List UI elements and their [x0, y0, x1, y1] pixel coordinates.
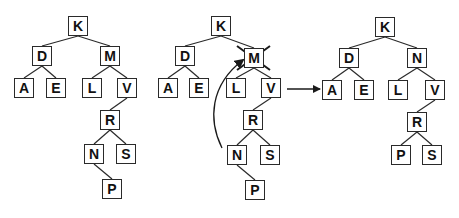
tree-node-during-m: M — [244, 48, 264, 68]
tree-edge-after-v-r — [417, 100, 435, 112]
tree-edge-after-n-l — [398, 68, 417, 80]
tree-node-before-k: K — [68, 16, 88, 36]
tree-node-before-r: R — [100, 110, 120, 130]
tree-node-before-d: D — [32, 46, 52, 66]
tree-edge-during-v-r — [253, 98, 271, 110]
tree-node-before-a: A — [14, 78, 34, 98]
tree-node-during-d: D — [175, 46, 195, 66]
tree-edge-before-k-d — [42, 36, 78, 46]
tree-edge-after-r-p — [401, 132, 417, 145]
tree-edge-during-d-e — [185, 66, 199, 78]
tree-node-after-e: E — [354, 80, 374, 100]
tree-edge-before-m-l — [92, 66, 110, 78]
tree-node-during-k: K — [211, 16, 231, 36]
tree-node-during-a: A — [158, 78, 178, 98]
tree-node-after-k: K — [375, 17, 395, 37]
tree-node-after-l: L — [388, 80, 408, 100]
tree-node-during-r: R — [243, 110, 263, 130]
tree-node-before-e: E — [46, 78, 66, 98]
tree-edge-before-m-v — [110, 66, 127, 78]
tree-edge-after-k-d — [349, 37, 385, 48]
tree-node-during-l: L — [226, 78, 246, 98]
tree-edge-before-r-s — [110, 130, 126, 144]
tree-edge-after-k-n — [385, 37, 417, 48]
tree-edge-before-d-e — [42, 66, 56, 78]
tree-node-after-p: P — [391, 145, 411, 165]
tree-edge-before-k-m — [78, 36, 110, 46]
tree-node-before-m: M — [100, 46, 120, 66]
tree-node-before-s: S — [116, 144, 136, 164]
tree-edge-during-n-p — [237, 165, 255, 180]
tree-edge-before-d-a — [24, 66, 42, 78]
tree-edge-during-r-n — [237, 130, 253, 145]
tree-node-before-p: P — [102, 179, 122, 199]
tree-node-during-v: V — [261, 78, 281, 98]
tree-node-during-p: P — [245, 180, 265, 200]
tree-node-after-s: S — [422, 145, 442, 165]
tree-edge-after-n-v — [417, 68, 435, 80]
replacement-curved-arrow — [214, 60, 243, 148]
tree-edge-after-r-s — [417, 132, 432, 145]
tree-edge-after-d-e — [349, 68, 364, 80]
tree-edge-during-r-s — [253, 130, 270, 145]
tree-node-after-r: R — [407, 112, 427, 132]
tree-node-after-v: V — [425, 80, 445, 100]
tree-edge-before-n-p — [94, 164, 112, 179]
tree-edge-during-d-a — [168, 66, 185, 78]
tree-node-after-n: N — [407, 48, 427, 68]
tree-edge-after-d-a — [332, 68, 349, 80]
tree-node-during-n: N — [227, 145, 247, 165]
tree-node-before-v: V — [117, 78, 137, 98]
tree-edge-before-r-n — [94, 130, 110, 144]
tree-edge-before-v-r — [110, 98, 127, 110]
tree-node-during-s: S — [260, 145, 280, 165]
tree-edge-during-k-d — [185, 36, 221, 46]
tree-node-during-e: E — [189, 78, 209, 98]
tree-node-after-a: A — [322, 80, 342, 100]
tree-node-before-l: L — [82, 78, 102, 98]
tree-node-after-d: D — [339, 48, 359, 68]
tree-node-before-n: N — [84, 144, 104, 164]
